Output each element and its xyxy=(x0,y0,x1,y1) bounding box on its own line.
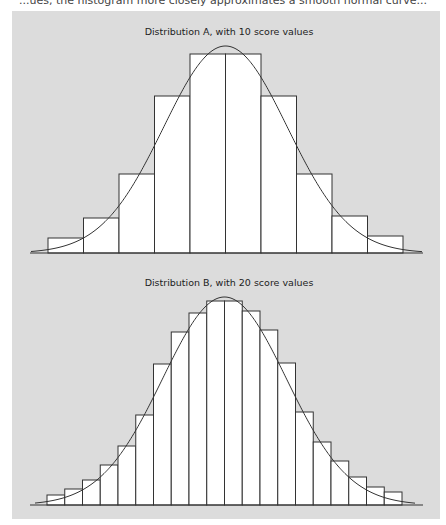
histogram-bar xyxy=(367,487,385,505)
chart-a-bars xyxy=(48,54,403,253)
histogram-bar xyxy=(171,332,189,505)
histogram-bar xyxy=(297,174,333,253)
histogram-bar xyxy=(225,301,243,505)
histogram-bar xyxy=(190,54,226,253)
histogram-bar xyxy=(100,465,118,505)
chart-a-title: Distribution A, with 10 score values xyxy=(145,26,314,37)
histogram-bar xyxy=(155,96,191,253)
histogram-bar xyxy=(119,174,155,253)
histogram-bar xyxy=(136,415,154,505)
histogram-bar xyxy=(226,54,262,253)
histogram-bar xyxy=(242,311,260,505)
histogram-bar xyxy=(313,442,331,505)
histogram-bar xyxy=(189,313,207,505)
histogram-bar xyxy=(118,446,136,505)
histogram-bar xyxy=(154,364,172,505)
chart-b-bars xyxy=(47,301,402,505)
histograms: Distribution A, with 10 score values Dis… xyxy=(0,0,446,525)
histogram-bar xyxy=(278,363,296,505)
histogram-bar xyxy=(368,236,404,253)
histogram-bar xyxy=(207,301,225,505)
histogram-bar xyxy=(349,477,367,505)
chart-b-title: Distribution B, with 20 score values xyxy=(145,277,314,288)
histogram-bar xyxy=(261,96,297,253)
histogram-bar xyxy=(84,218,120,253)
